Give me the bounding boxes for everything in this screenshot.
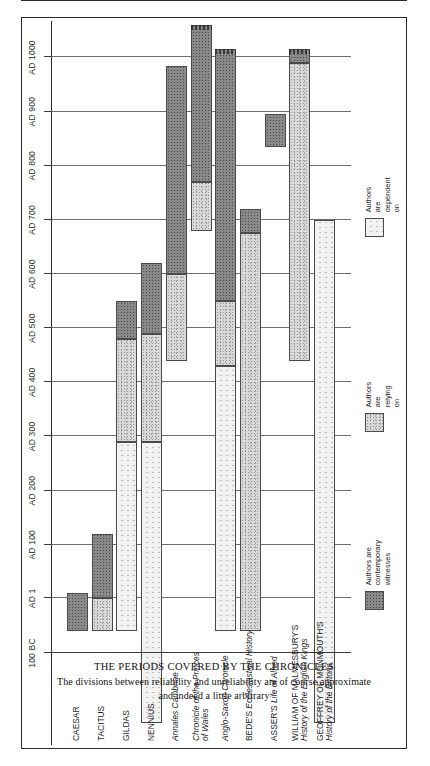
axis-tick	[44, 597, 52, 598]
axis-tick	[44, 165, 52, 166]
tick-label: AD 900	[27, 97, 37, 127]
legend-label-good: Authors are relying on good earlier sour…	[364, 377, 403, 407]
timeline-bar	[92, 534, 113, 631]
axis-tick	[44, 327, 52, 328]
open-end-marker	[289, 49, 310, 54]
tick-label: AD 1	[27, 588, 37, 608]
axis-tick	[44, 381, 52, 382]
axis-tick	[44, 435, 52, 436]
bar-segment-contemporary	[116, 301, 137, 339]
timeline-bar	[166, 66, 187, 361]
timeline-bar	[141, 263, 162, 723]
timeline-bar	[265, 114, 286, 146]
open-end-marker	[215, 49, 236, 54]
tick-label: AD 600	[27, 259, 37, 289]
top-axis-line	[51, 21, 52, 745]
rotated-figure-wrapper: 100 BCAD 1AD 100AD 200AD 300AD 400AD 500…	[25, 21, 403, 745]
legend-swatch-good	[365, 413, 384, 432]
bar-segment-good	[166, 274, 187, 361]
caption-title: THE PERIODS COVERED BY THE CHRONICLES	[21, 661, 407, 672]
legend: Authors are contemporary witnessesAuthor…	[359, 21, 403, 745]
axis-tick	[44, 544, 52, 545]
axis-tick	[44, 273, 52, 274]
row-label-part: BEDE'S	[245, 709, 255, 741]
bar-segment-good	[191, 182, 212, 231]
legend-label-contemporary: Authors are contemporary witnesses	[364, 540, 392, 585]
timeline-bar	[289, 49, 310, 360]
timeline-bar	[67, 593, 88, 631]
bar-segment-contemporary	[191, 25, 212, 182]
bar-segment-good	[141, 334, 162, 442]
bar-segment-garbled	[215, 366, 236, 631]
bar-segment-contemporary	[141, 263, 162, 333]
tick-label: AD 500	[27, 313, 37, 343]
plot-area: 100 BCAD 1AD 100AD 200AD 300AD 400AD 500…	[51, 21, 351, 745]
bar-segment-good	[116, 339, 137, 442]
bar-segment-contemporary	[215, 49, 236, 301]
caption-subtitle-line1: The divisions between reliability and un…	[21, 675, 407, 689]
legend-label-garbled: Authors are dependent on garbled or unre…	[364, 177, 403, 212]
bar-segment-contemporary	[265, 114, 286, 146]
legend-swatch-garbled	[365, 218, 384, 237]
timeline-bar	[215, 49, 236, 631]
caption-divider	[21, 0, 407, 1]
tick-label: AD 100	[27, 530, 37, 560]
axis-tick	[44, 111, 52, 112]
bar-segment-good	[289, 63, 310, 361]
bar-segment-good	[215, 301, 236, 366]
timeline-bar	[116, 301, 137, 631]
axis-tick	[44, 219, 52, 220]
gridline-ad-300	[51, 435, 351, 436]
tick-label: AD 800	[27, 151, 37, 181]
gridline-ad-400	[51, 381, 351, 382]
open-end-marker	[191, 25, 212, 30]
bar-segment-contemporary	[92, 534, 113, 598]
legend-swatch-contemporary	[365, 591, 384, 610]
bar-segment-good	[92, 598, 113, 631]
bar-segment-contemporary	[166, 66, 187, 274]
tick-label: AD 400	[27, 368, 37, 398]
gridline-ad-200	[51, 490, 351, 491]
caption-subtitle-line2: and indeed a little arbitrary	[21, 689, 407, 703]
tick-label: AD 200	[27, 476, 37, 506]
tick-label: AD 300	[27, 422, 37, 452]
figure-caption: THE PERIODS COVERED BY THE CHRONICLES Th…	[21, 661, 407, 702]
bar-segment-good	[240, 233, 261, 631]
bar-segment-garbled	[116, 442, 137, 631]
chart-canvas: 100 BCAD 1AD 100AD 200AD 300AD 400AD 500…	[25, 21, 403, 745]
bar-segment-contemporary	[240, 209, 261, 233]
axis-tick	[44, 490, 52, 491]
axis-tick	[44, 56, 52, 57]
timeline-bar	[240, 209, 261, 631]
timeline-bar	[191, 25, 212, 231]
bar-segment-contemporary	[67, 593, 88, 631]
tick-label: AD 700	[27, 205, 37, 235]
tick-label: AD 1000	[27, 40, 37, 74]
row-label-part: ASSER'S	[269, 703, 279, 741]
